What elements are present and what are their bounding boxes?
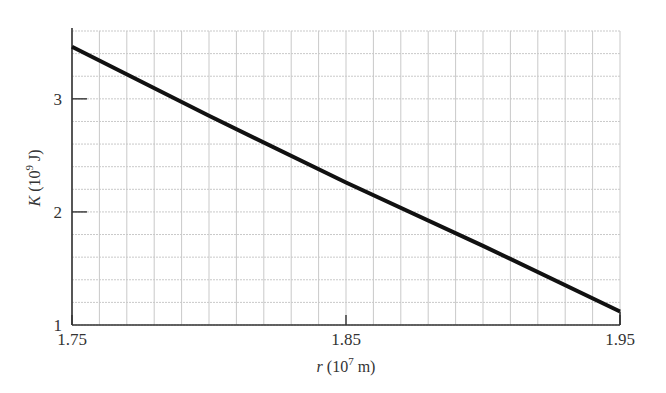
y-tick-label: 1 bbox=[54, 316, 63, 335]
x-tick-label: 1.85 bbox=[331, 330, 361, 349]
x-tick-label: 1.95 bbox=[605, 330, 635, 349]
y-tick-label: 3 bbox=[54, 90, 63, 109]
grid bbox=[72, 31, 620, 325]
y-axis-label: K (109 J) bbox=[23, 149, 44, 207]
chart: 1.751.851.95123 r (107 m) K (109 J) bbox=[0, 0, 666, 393]
x-axis-label: r (107 m) bbox=[317, 355, 376, 376]
y-tick-label: 2 bbox=[54, 203, 63, 222]
tick-labels: 1.751.851.95123 bbox=[54, 90, 635, 349]
